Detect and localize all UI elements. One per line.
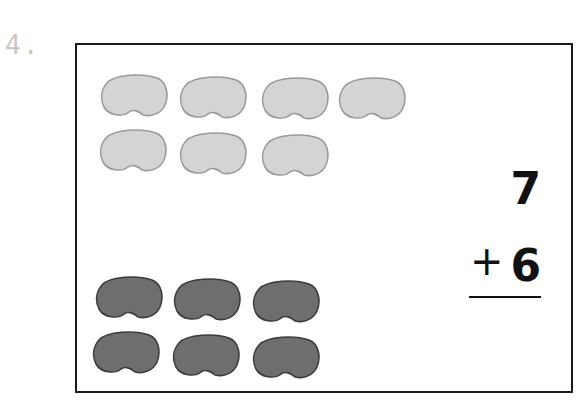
dark-bean-icon xyxy=(172,277,242,327)
addend-top: 7 xyxy=(510,163,541,214)
dark-bean-icon xyxy=(94,275,164,325)
dark-bean-icon xyxy=(251,335,321,385)
sum-rule-line xyxy=(469,296,541,298)
light-bean-icon xyxy=(260,133,330,183)
problem-number: 4. xyxy=(5,30,40,60)
dark-bean-icon xyxy=(91,330,161,380)
plus-sign: + xyxy=(470,238,504,284)
addend-bottom: 6 xyxy=(510,240,541,291)
dark-bean-icon xyxy=(171,333,241,383)
light-bean-icon xyxy=(260,76,330,126)
light-bean-icon xyxy=(178,75,248,125)
light-bean-icon xyxy=(99,73,169,123)
problem-box: 7 + 6 xyxy=(75,43,573,393)
light-bean-icon xyxy=(178,131,248,181)
dark-bean-icon xyxy=(251,279,321,329)
light-bean-icon xyxy=(98,128,168,178)
light-bean-icon xyxy=(337,76,407,126)
